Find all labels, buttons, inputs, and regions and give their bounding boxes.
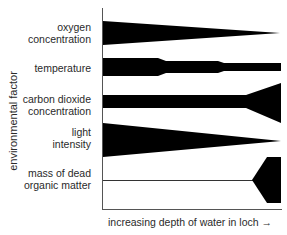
arrow-right-icon: → <box>262 216 273 228</box>
oxygen-band <box>103 21 280 45</box>
plot-area <box>0 0 287 235</box>
dead-matter-band <box>252 157 281 203</box>
light-band <box>103 123 281 157</box>
x-axis-label: increasing depth of water in loch → <box>108 216 272 228</box>
temperature-band <box>103 58 281 76</box>
carbon-dioxide-band <box>103 83 281 123</box>
